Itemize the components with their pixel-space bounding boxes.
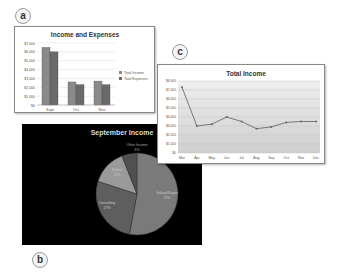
chart-title: Total Income [226,70,266,77]
label-badge-a: a [15,8,31,24]
label-badge-b: b [32,252,48,268]
data-point [181,86,183,88]
chart-title: September Income [91,129,154,137]
x-tick-label: Sept [46,108,55,112]
slice-label: Rental [112,168,122,172]
x-tick-label: Oct [283,156,288,160]
slice-percent: 53% [163,196,170,200]
y-tick-label: $4,000 [24,68,35,72]
legend-label: Total Income [124,71,144,75]
y-tick-label: $0 [31,104,35,108]
y-tick-label: $0 [172,151,176,155]
data-point [315,121,317,123]
x-tick-label: Aug [253,156,259,160]
y-tick-label: $5,000 [24,59,35,63]
slice-label: Salary/Wages [156,191,178,195]
x-tick-label: Oct [73,108,80,112]
legend-label: Total Expenses [124,77,148,81]
bar-total-expenses [50,52,58,105]
data-point [285,121,287,123]
line-chart-svg: Total Income$0$1,000$2,000$3,000$4,000$5… [158,65,326,165]
y-tick-label: $7,000 [24,42,35,46]
slice-label: Other Income [126,143,147,147]
income-expenses-bar-chart: Income and Expenses$0$1,000$2,000$3,000$… [14,26,155,113]
data-point [241,121,243,123]
y-tick-label: $3,000 [166,124,176,128]
y-tick-label: $1,000 [166,142,176,146]
y-tick-label: $2,000 [24,86,35,90]
chart-title: Income and Expenses [51,31,120,39]
y-tick-label: $1,000 [24,95,35,99]
bar-chart-svg: Income and Expenses$0$1,000$2,000$3,000$… [15,27,156,114]
legend-swatch [119,71,122,74]
x-tick-label: Nov [99,108,106,112]
data-point [270,126,272,128]
x-tick-label: Sep [268,156,274,160]
slice-percent: 14% [113,173,120,177]
bar-total-income [68,82,76,105]
data-point [300,121,302,123]
y-tick-label: $6,000 [24,50,35,54]
y-tick-label: $7,000 [166,88,176,92]
data-point [226,116,228,118]
y-tick-label: $8,000 [166,79,176,83]
x-tick-label: Jun [224,156,230,160]
x-tick-label: Jul [239,156,244,160]
slice-label: Consulting [99,201,116,205]
slice-percent: 27% [103,206,110,210]
data-point [211,123,213,125]
legend-swatch [119,77,122,80]
slice-percent: 6% [134,148,139,152]
y-tick-label: $4,000 [166,115,176,119]
data-point [255,128,257,130]
x-tick-label: Apr [194,156,200,160]
bar-total-expenses [76,85,84,105]
y-tick-label: $5,000 [166,106,176,110]
x-tick-label: Nov [298,156,304,160]
data-point [196,125,198,127]
x-tick-label: Dec [313,156,319,160]
y-tick-label: $2,000 [166,133,176,137]
bar-total-income [94,81,102,105]
bar-total-expenses [102,85,110,105]
bar-total-income [42,47,50,105]
total-income-line-chart: Total Income$0$1,000$2,000$3,000$4,000$5… [157,64,325,164]
y-tick-label: $3,000 [24,77,35,81]
x-tick-label: Mar [179,156,186,160]
label-badge-c: c [172,44,188,60]
x-tick-label: May [208,156,215,160]
y-tick-label: $6,000 [166,97,176,101]
